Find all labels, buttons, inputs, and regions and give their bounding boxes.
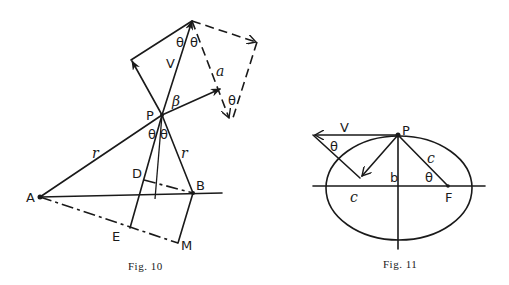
dashed-D-B xyxy=(144,180,193,193)
figure-10: A B P D E M V a β r r θ θ θ θ θ Fig. 10 xyxy=(26,21,257,272)
dashed-top-right xyxy=(192,21,256,42)
caption-fig10: Fig. 10 xyxy=(128,260,163,272)
point-F xyxy=(446,184,450,188)
label-theta-top-right: θ xyxy=(190,35,198,50)
label-A: A xyxy=(26,190,35,205)
label-r1: r xyxy=(92,145,100,161)
label-beta: β xyxy=(171,93,180,109)
point-B xyxy=(191,191,195,195)
label-c-axis: c xyxy=(350,189,358,205)
label-F: F xyxy=(445,190,452,205)
label-M: M xyxy=(181,238,192,253)
ellipse xyxy=(326,136,472,240)
label-theta-P-left: θ xyxy=(148,127,156,142)
point-P xyxy=(160,113,164,117)
label-theta-right: θ xyxy=(425,170,433,185)
label-V: V xyxy=(166,56,175,71)
label-P: P xyxy=(402,123,410,138)
label-P: P xyxy=(146,108,154,123)
label-V: V xyxy=(340,120,349,135)
label-theta-P-right: θ xyxy=(160,127,168,142)
dashed-right-bottom xyxy=(232,42,257,121)
label-E: E xyxy=(112,229,120,244)
point-P xyxy=(396,133,401,138)
line-B-M xyxy=(178,193,193,243)
label-c-focal: c xyxy=(427,150,435,166)
line-AP xyxy=(40,115,162,197)
vector-left xyxy=(132,61,162,115)
label-r2: r xyxy=(181,145,189,161)
label-a: a xyxy=(216,63,224,79)
label-B: B xyxy=(196,178,205,193)
label-theta-dashed: θ xyxy=(228,93,236,108)
figures-canvas: A B P D E M V a β r r θ θ θ θ θ Fig. 10 xyxy=(0,0,509,285)
vector-a xyxy=(162,89,220,115)
caption-fig11: Fig. 11 xyxy=(383,258,417,270)
label-theta-top-left: θ xyxy=(176,35,184,50)
line-P-F xyxy=(398,135,448,186)
figure-11: P V F b c c θ θ Fig. 11 xyxy=(313,120,485,270)
label-b: b xyxy=(390,170,398,185)
point-A xyxy=(38,195,43,200)
label-theta-left: θ xyxy=(330,139,338,154)
label-D: D xyxy=(132,166,142,181)
dashed-A-M xyxy=(40,197,178,243)
